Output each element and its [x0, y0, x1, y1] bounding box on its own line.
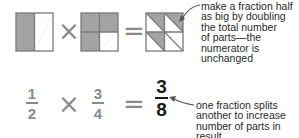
numerator: 3: [156, 78, 167, 96]
denominator: 8: [156, 101, 167, 119]
multiply-operator-top: ×: [58, 18, 80, 44]
three-quarters-square: [80, 12, 119, 52]
fraction-bar: [26, 102, 38, 104]
fraction-bar: [92, 102, 104, 104]
fraction-three-quarters: 3 4: [92, 86, 104, 121]
arrow-icon-top: [176, 2, 202, 26]
numerator: 3: [94, 86, 102, 101]
equals-operator-bottom: =: [123, 91, 145, 117]
equals-operator-top: =: [123, 18, 145, 44]
fraction-three-eighths: 3 8: [155, 78, 168, 119]
denominator: 2: [28, 106, 36, 121]
annotation-top: make a fraction half as big by doubling …: [201, 1, 299, 63]
numerator: 1: [28, 86, 36, 101]
fraction-one-half: 1 2: [26, 86, 38, 121]
arrow-icon-bottom: [168, 95, 196, 109]
multiply-operator-bottom: ×: [58, 91, 80, 117]
annotation-bottom: one fraction splits another to increase …: [196, 100, 299, 138]
denominator: 4: [94, 106, 102, 121]
half-square: [15, 12, 54, 52]
